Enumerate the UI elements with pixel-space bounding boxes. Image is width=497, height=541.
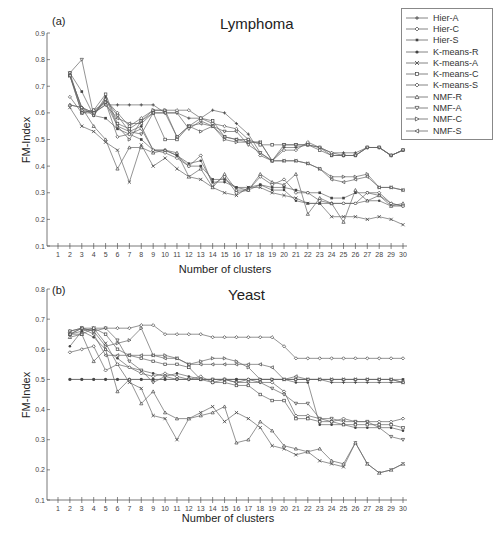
x-tick-label: 16 xyxy=(233,251,241,258)
y-tick-label: 0.6 xyxy=(35,346,45,353)
y-tick-label: 0.7 xyxy=(35,83,45,90)
x-tick-label: 23 xyxy=(316,251,324,258)
series-nmf-s xyxy=(68,327,404,384)
legend-item-hier-s: Hier-S xyxy=(402,35,492,46)
x-tick-label: 2 xyxy=(68,505,72,512)
y-tick-label: 0.2 xyxy=(35,216,45,223)
triangle-right-marker-icon xyxy=(402,114,430,124)
x-tick-label: 12 xyxy=(185,505,193,512)
x-tick-label: 1 xyxy=(56,251,60,258)
x-tick-label: 22 xyxy=(304,251,312,258)
triangle-down-marker-icon xyxy=(402,103,430,113)
legend-label: NMF-S xyxy=(433,126,462,136)
y-tick-label: 0.8 xyxy=(35,56,45,63)
x-tick-label: 11 xyxy=(173,251,180,258)
plot-area-lymphoma: 0.10.20.30.40.50.60.70.80.91234567891011… xyxy=(35,30,407,259)
legend-label: K-means-S xyxy=(433,80,478,90)
legend-item-nmf-a: NMF-A xyxy=(402,102,492,113)
x-tick-label: 15 xyxy=(221,505,229,512)
x-tick-label: 3 xyxy=(80,505,84,512)
x-tick-label: 1 xyxy=(56,505,60,512)
legend-label: Hier-S xyxy=(433,35,459,45)
x-tick-label: 14 xyxy=(209,251,217,258)
y-tick-label: 0.3 xyxy=(35,189,45,196)
x-tick-label: 2 xyxy=(68,251,72,258)
y-tick-label: 0.2 xyxy=(35,466,45,473)
series-nmf-a xyxy=(68,58,404,162)
x-axis-label-b: Number of clusters xyxy=(182,512,275,524)
y-tick-label: 0.1 xyxy=(35,497,45,504)
legend-label: NMF-R xyxy=(433,92,462,102)
legend-item-k-means-s: K-means-S xyxy=(402,80,492,91)
x-tick-label: 30 xyxy=(399,505,407,512)
circle-filled-marker-icon xyxy=(402,47,430,57)
chart-title-lymphoma: Lymphoma xyxy=(220,15,294,32)
legend-label: Hier-C xyxy=(433,24,459,34)
x-tick-label: 18 xyxy=(256,505,264,512)
x-tick-label: 20 xyxy=(280,251,288,258)
y-axis-label-a: FM-Index xyxy=(20,116,32,163)
x-tick-label: 12 xyxy=(185,251,193,258)
legend-item-nmf-c: NMF-C xyxy=(402,114,492,125)
legend-label: NMF-C xyxy=(433,114,462,124)
legend-item-hier-a: Hier-A xyxy=(402,12,492,23)
x-tick-label: 18 xyxy=(256,251,264,258)
x-tick-label: 29 xyxy=(387,251,395,258)
x-axis-label-a: Number of clusters xyxy=(179,263,272,275)
x-tick-label: 4 xyxy=(92,505,96,512)
x-tick-label: 6 xyxy=(116,505,120,512)
x-tick-label: 6 xyxy=(116,251,120,258)
x-tick-label: 9 xyxy=(151,505,155,512)
x-tick-label: 5 xyxy=(104,505,108,512)
x-tick-label: 5 xyxy=(104,251,108,258)
panel-label-a: (a) xyxy=(52,15,65,27)
x-tick-label: 13 xyxy=(197,251,205,258)
legend-item-nmf-r: NMF-R xyxy=(402,91,492,102)
x-tick-label: 22 xyxy=(304,505,312,512)
series-nmf-r xyxy=(68,103,404,223)
y-tick-label: 0.1 xyxy=(35,243,45,250)
chart-title-yeast: Yeast xyxy=(228,286,266,303)
legend-item-k-means-r: K-means-R xyxy=(402,46,492,57)
diamond-open-marker-icon xyxy=(402,80,430,90)
y-tick-label: 0.4 xyxy=(35,163,45,170)
x-tick-label: 7 xyxy=(127,505,131,512)
star-marker-icon xyxy=(402,35,430,45)
x-tick-label: 11 xyxy=(173,505,180,512)
y-tick-label: 0.6 xyxy=(35,109,45,116)
x-tick-label: 29 xyxy=(387,505,395,512)
x-tick-label: 19 xyxy=(268,251,276,258)
legend-item-k-means-c: K-means-C xyxy=(402,68,492,79)
x-tick-label: 13 xyxy=(197,505,205,512)
x-tick-label: 21 xyxy=(292,251,300,258)
x-tick-label: 15 xyxy=(221,251,229,258)
x-tick-label: 20 xyxy=(280,505,288,512)
y-tick-label: 0.5 xyxy=(35,136,45,143)
legend-label: K-means-R xyxy=(433,47,479,57)
x-tick-label: 4 xyxy=(92,251,96,258)
y-tick-label: 0.3 xyxy=(35,436,45,443)
legend-label: K-means-A xyxy=(433,58,478,68)
x-tick-label: 14 xyxy=(209,505,217,512)
x-tick-label: 24 xyxy=(328,505,336,512)
panel-label-b: (b) xyxy=(52,284,65,296)
legend: Hier-AHier-CHier-SK-means-RK-means-AK-me… xyxy=(401,8,493,140)
x-tick-label: 30 xyxy=(399,251,407,258)
square-marker-icon xyxy=(402,69,430,79)
legend-label: K-means-C xyxy=(433,69,479,79)
legend-item-nmf-s: NMF-S xyxy=(402,125,492,136)
x-tick-label: 9 xyxy=(151,251,155,258)
legend-label: Hier-A xyxy=(433,13,459,23)
legend-item-k-means-a: K-means-A xyxy=(402,57,492,68)
x-tick-label: 10 xyxy=(161,505,169,512)
x-tick-label: 28 xyxy=(375,505,383,512)
legend-label: NMF-A xyxy=(433,103,462,113)
x-tick-label: 21 xyxy=(292,505,300,512)
x-tick-label: 16 xyxy=(233,505,241,512)
x-tick-label: 17 xyxy=(244,505,252,512)
x-tick-label: 7 xyxy=(127,251,131,258)
y-tick-label: 0.8 xyxy=(35,286,45,293)
cross-marker-icon xyxy=(402,58,430,68)
x-tick-label: 28 xyxy=(375,251,383,258)
plot-area-yeast: 0.10.20.30.40.50.60.70.81234567891011121… xyxy=(35,286,407,513)
